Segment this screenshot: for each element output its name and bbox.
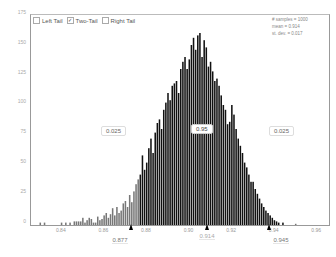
y-tick-25: 25 <box>0 188 26 194</box>
lower-bound-value: 0.877 <box>112 237 127 244</box>
x-tick: 0.84 <box>56 227 66 233</box>
upper-bound-value: 0.945 <box>273 237 288 244</box>
left-tail-checkbox[interactable]: Left Tail <box>33 17 63 24</box>
stdev-value: st. dev. = 0.017 <box>272 30 308 37</box>
x-tick: 0.96 <box>311 227 321 233</box>
x-tick: 0.90 <box>184 227 194 233</box>
sample-count: # samples = 1000 <box>272 16 308 23</box>
right-tail-prob: 0.025 <box>269 126 294 136</box>
y-tick-75: 75 <box>0 128 26 134</box>
tail-options: Left Tail ✓Two-Tail Right Tail <box>33 17 135 24</box>
x-tick: 0.86 <box>98 227 108 233</box>
mean-marker-value: 0.914 <box>199 233 214 240</box>
two-tail-checkbox[interactable]: ✓Two-Tail <box>67 17 98 24</box>
upper-bound-marker[interactable] <box>267 224 271 230</box>
y-tick-125: 125 <box>0 69 26 75</box>
right-tail-checkbox[interactable]: Right Tail <box>102 17 136 24</box>
left-tail-prob: 0.025 <box>101 126 126 136</box>
x-tick: 0.88 <box>141 227 151 233</box>
y-tick-175: 175 <box>0 9 26 15</box>
lower-bound-marker[interactable] <box>129 224 133 230</box>
mean-marker <box>205 224 209 230</box>
stats-panel: # samples = 1000 mean = 0.914 st. dev. =… <box>272 16 308 37</box>
x-tick: 0.92 <box>226 227 236 233</box>
mean-value: mean = 0.914 <box>272 23 308 30</box>
y-tick-100: 100 <box>0 98 26 104</box>
histogram-bars <box>31 15 329 225</box>
y-tick-150: 150 <box>0 39 26 45</box>
y-tick-0: 0 <box>0 218 26 224</box>
y-tick-50: 50 <box>0 158 26 164</box>
middle-prob: 0.95 <box>191 124 213 134</box>
